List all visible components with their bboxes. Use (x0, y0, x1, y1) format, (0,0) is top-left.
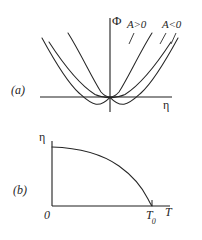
panel-a-leader-a-positive (129, 33, 134, 44)
panel-a-tag: (a) (11, 84, 25, 96)
panel-a-y-axis-label: Φ (112, 14, 122, 27)
panel-b-tag: (b) (13, 184, 27, 196)
figure-landau-free-energy: (a) Φ η A>0 A<0 (b) η 0 T0 T (0, 0, 202, 240)
panel-a-x-axis-label: η (163, 99, 169, 111)
panel-a-leader-a-negative (160, 33, 166, 44)
panel-b-x-axis-label: T (165, 206, 172, 218)
panel-b-critical-temperature-label: T0 (146, 209, 157, 224)
panel-b-critical-temperature-subscript: 0 (152, 217, 156, 226)
panel-b-y-axis-label: η (39, 131, 45, 143)
panel-a-curve-label-a-negative: A<0 (162, 19, 181, 30)
panel-b-origin-label: 0 (44, 209, 50, 221)
panel-b-curve-order-parameter (52, 147, 152, 206)
panel-a-curve-label-a-positive: A>0 (127, 19, 146, 30)
panel-b-group (52, 141, 170, 206)
figure-drawing-surface (0, 0, 202, 240)
panel-a-group (40, 18, 178, 112)
